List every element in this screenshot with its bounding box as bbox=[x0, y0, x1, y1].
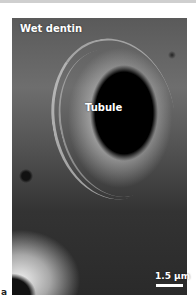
sample-label: Wet dentin bbox=[20, 24, 82, 34]
top-border-bar bbox=[0, 0, 196, 3]
sem-micrograph bbox=[12, 18, 187, 295]
tubule-label: Tubule bbox=[85, 103, 122, 113]
scale-bar-label: 1.5 µm bbox=[155, 272, 190, 281]
panel-letter: a bbox=[1, 287, 7, 297]
scale-bar bbox=[156, 284, 183, 287]
